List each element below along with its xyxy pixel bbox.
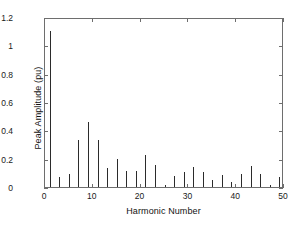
y-tick-label: 1.2 bbox=[0, 14, 13, 23]
x-tick-mark bbox=[92, 18, 93, 22]
y-tick-mark bbox=[279, 160, 283, 161]
x-tick-mark bbox=[140, 18, 141, 22]
y-tick-label: 0.8 bbox=[0, 70, 13, 79]
y-tick-mark bbox=[44, 46, 48, 47]
x-tick-label: 30 bbox=[183, 192, 192, 201]
y-tick-label: 0.6 bbox=[0, 99, 13, 108]
y-tick-mark bbox=[279, 46, 283, 47]
y-tick-mark bbox=[279, 75, 283, 76]
x-tick-mark bbox=[283, 18, 284, 22]
x-tick-mark bbox=[140, 184, 141, 188]
x-tick-mark bbox=[187, 184, 188, 188]
x-axis-label: Harmonic Number bbox=[44, 206, 283, 216]
y-tick-mark bbox=[44, 75, 48, 76]
x-tick-label: 20 bbox=[135, 192, 144, 201]
x-tick-mark bbox=[235, 18, 236, 22]
x-tick-label: 50 bbox=[278, 192, 287, 201]
y-axis-label-holder: Peak Amplitude (pu) bbox=[10, 0, 11, 242]
x-tick-label: 10 bbox=[87, 192, 96, 201]
y-tick-mark bbox=[44, 131, 48, 132]
x-tick-mark bbox=[187, 18, 188, 22]
y-tick-label: 0 bbox=[0, 184, 13, 193]
x-tick-mark bbox=[92, 184, 93, 188]
y-tick-label: 0.4 bbox=[0, 127, 13, 136]
y-tick-mark bbox=[44, 160, 48, 161]
x-tick-mark bbox=[283, 184, 284, 188]
x-tick-label: 40 bbox=[230, 192, 239, 201]
y-tick-mark bbox=[279, 131, 283, 132]
x-tick-mark bbox=[44, 18, 45, 22]
y-tick-mark bbox=[44, 188, 48, 189]
x-tick-mark bbox=[44, 184, 45, 188]
x-tick-label: 0 bbox=[42, 192, 47, 201]
y-tick-label: 0.2 bbox=[0, 155, 13, 164]
y-tick-mark bbox=[44, 103, 48, 104]
y-tick-label: 1 bbox=[0, 42, 13, 51]
harmonic-spectrum-figure: 00.20.40.60.811.2 01020304050 Harmonic N… bbox=[0, 0, 300, 242]
y-tick-mark bbox=[279, 103, 283, 104]
y-axis-label: Peak Amplitude (pu) bbox=[33, 28, 43, 188]
x-tick-mark bbox=[235, 184, 236, 188]
y-tick-mark bbox=[279, 188, 283, 189]
